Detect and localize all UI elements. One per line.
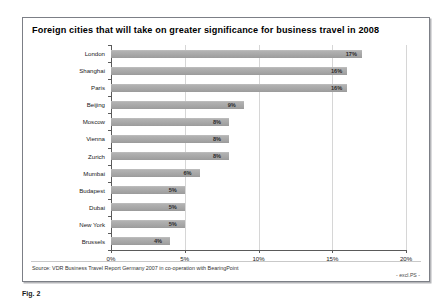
- x-tick-label-0: 0%: [107, 255, 116, 262]
- bar-row: 17%: [111, 45, 406, 62]
- x-tick-10: [259, 250, 260, 253]
- gridline-20: [406, 45, 407, 250]
- bar-row: 6%: [111, 165, 406, 182]
- bar-value-label: 4%: [154, 238, 162, 244]
- figure-caption: Fig. 2: [22, 290, 40, 297]
- bar-value-label: 16%: [331, 68, 342, 74]
- x-tick-label-20: 20%: [400, 255, 412, 262]
- chart-figure-frame: Foreign cities that will take on greater…: [22, 17, 430, 282]
- bar-row: 5%: [111, 216, 406, 233]
- x-tick-0: [111, 250, 112, 253]
- plot-area: 17%16%16%9%8%8%8%6%5%5%5%4%: [111, 45, 406, 250]
- category-label-vienna: Vienna: [86, 130, 105, 147]
- bar-track: 5%: [111, 182, 406, 199]
- bar-moscow[interactable]: [111, 118, 229, 126]
- x-tick-label-15: 15%: [326, 255, 338, 262]
- bar-value-label: 5%: [169, 221, 177, 227]
- bar-value-label: 6%: [184, 170, 192, 176]
- bar-track: 6%: [111, 165, 406, 182]
- category-axis: LondonShanghaiParisBeijingMoscowViennaZu…: [23, 45, 111, 250]
- bar-track: 5%: [111, 216, 406, 233]
- bar-track: 16%: [111, 79, 406, 96]
- chart-title: Foreign cities that will take on greater…: [32, 24, 421, 36]
- x-tick-20: [406, 250, 407, 253]
- bar-beijing[interactable]: [111, 101, 244, 109]
- bar-track: 5%: [111, 199, 406, 216]
- bar-track: 17%: [111, 45, 406, 62]
- bar-value-label: 9%: [228, 102, 236, 108]
- category-label-brussels: Brussels: [82, 233, 105, 250]
- footer-divider: [31, 261, 421, 262]
- category-label-beijing: Beijing: [87, 96, 105, 113]
- bar-zurich[interactable]: [111, 152, 229, 160]
- bar-value-label: 8%: [213, 136, 221, 142]
- category-label-shanghai: Shanghai: [79, 62, 105, 79]
- category-label-mumbai: Mumbai: [83, 165, 105, 182]
- bar-row: 4%: [111, 233, 406, 250]
- bar-track: 16%: [111, 62, 406, 79]
- bar-value-label: 5%: [169, 187, 177, 193]
- category-label-zurich: Zurich: [88, 148, 105, 165]
- bar-row: 16%: [111, 79, 406, 96]
- bar-value-label: 5%: [169, 204, 177, 210]
- bar-track: 8%: [111, 148, 406, 165]
- source-note: Source: VDR Business Travel Report Germa…: [32, 265, 238, 271]
- bar-row: 16%: [111, 62, 406, 79]
- bar-row: 8%: [111, 113, 406, 130]
- bar-row: 8%: [111, 130, 406, 147]
- bar-london[interactable]: [111, 50, 362, 58]
- bar-value-label: 8%: [213, 119, 221, 125]
- bar-row: 9%: [111, 96, 406, 113]
- bar-value-label: 16%: [331, 85, 342, 91]
- category-label-dubai: Dubai: [89, 199, 105, 216]
- bar-track: 4%: [111, 233, 406, 250]
- x-tick-5: [185, 250, 186, 253]
- category-label-moscow: Moscow: [83, 113, 105, 130]
- bar-shanghai[interactable]: [111, 67, 347, 75]
- category-label-budapest: Budapest: [79, 182, 105, 199]
- bar-row: 5%: [111, 182, 406, 199]
- x-tick-15: [332, 250, 333, 253]
- bar-row: 8%: [111, 148, 406, 165]
- bar-track: 8%: [111, 113, 406, 130]
- bar-track: 8%: [111, 130, 406, 147]
- bar-value-label: 8%: [213, 153, 221, 159]
- bar-paris[interactable]: [111, 84, 347, 92]
- x-tick-label-10: 10%: [252, 255, 264, 262]
- bar-track: 9%: [111, 96, 406, 113]
- bar-vienna[interactable]: [111, 135, 229, 143]
- bar-row: 5%: [111, 199, 406, 216]
- excl-note: - excl.PS -: [396, 272, 420, 278]
- category-label-paris: Paris: [91, 79, 105, 96]
- category-label-new-york: New York: [79, 216, 105, 233]
- x-tick-label-5: 5%: [180, 255, 189, 262]
- bar-value-label: 17%: [346, 51, 357, 57]
- category-label-london: London: [85, 45, 105, 62]
